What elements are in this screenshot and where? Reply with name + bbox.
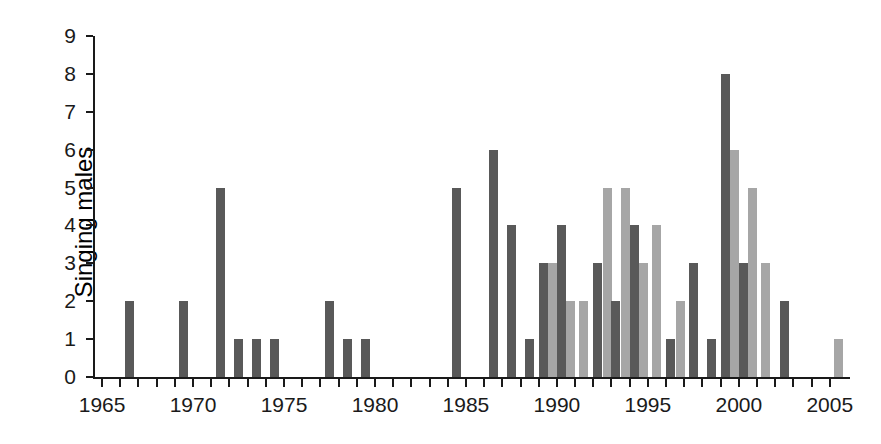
y-tick-6 <box>86 149 93 151</box>
y-tick-3 <box>86 262 93 264</box>
y-tick-2 <box>86 300 93 302</box>
y-tick-label-0: 0 <box>14 366 76 387</box>
bar-dark-1977 <box>325 301 334 377</box>
y-tick-8 <box>86 73 93 75</box>
x-tick-1996 <box>665 379 667 387</box>
x-tick-label-1990: 1990 <box>517 394 597 415</box>
x-tick-1965 <box>101 379 103 387</box>
x-tick-2004 <box>811 379 813 387</box>
bar-light-1994 <box>639 263 648 377</box>
x-tick-1976 <box>301 379 303 387</box>
bar-light-1995 <box>652 225 661 377</box>
x-tick-1998 <box>701 379 703 387</box>
bar-dark-1998 <box>707 339 716 377</box>
x-tick-1967 <box>137 379 139 387</box>
y-tick-0 <box>86 376 93 378</box>
bar-dark-1992 <box>593 263 602 377</box>
bar-dark-1979 <box>361 339 370 377</box>
x-tick-1972 <box>228 379 230 387</box>
x-tick-label-2005: 2005 <box>790 394 870 415</box>
y-tick-label-2: 2 <box>14 290 76 311</box>
x-tick-1980 <box>374 379 376 387</box>
x-tick-1997 <box>683 379 685 387</box>
x-axis-line <box>93 377 850 379</box>
x-tick-1970 <box>192 379 194 387</box>
bar-dark-1996 <box>666 339 675 377</box>
bar-light-2005 <box>834 339 843 377</box>
bar-dark-1972 <box>234 339 243 377</box>
bar-dark-1973 <box>252 339 261 377</box>
y-tick-label-3: 3 <box>14 252 76 273</box>
bar-light-1993 <box>621 188 630 377</box>
bar-dark-1994 <box>630 225 639 377</box>
x-tick-1990 <box>556 379 558 387</box>
x-tick-1993 <box>610 379 612 387</box>
y-tick-4 <box>86 224 93 226</box>
x-tick-1988 <box>520 379 522 387</box>
x-tick-1985 <box>465 379 467 387</box>
x-tick-1986 <box>483 379 485 387</box>
bar-dark-1990 <box>557 225 566 377</box>
x-tick-2003 <box>792 379 794 387</box>
bar-dark-1988 <box>525 339 534 377</box>
bar-dark-1987 <box>507 225 516 377</box>
y-tick-5 <box>86 187 93 189</box>
x-tick-1975 <box>283 379 285 387</box>
y-tick-9 <box>86 35 93 37</box>
bar-light-1990 <box>566 301 575 377</box>
bar-light-2000 <box>748 188 757 377</box>
x-tick-1991 <box>574 379 576 387</box>
y-tick-label-9: 9 <box>14 25 76 46</box>
x-tick-1966 <box>119 379 121 387</box>
x-tick-label-1995: 1995 <box>608 394 688 415</box>
plot-area <box>93 36 848 377</box>
x-tick-1987 <box>501 379 503 387</box>
x-tick-2005 <box>829 379 831 387</box>
bar-light-1989 <box>548 263 557 377</box>
x-tick-1969 <box>174 379 176 387</box>
bar-dark-1997 <box>689 263 698 377</box>
y-tick-label-6: 6 <box>14 139 76 160</box>
x-tick-label-1985: 1985 <box>426 394 506 415</box>
x-tick-label-1970: 1970 <box>153 394 233 415</box>
x-tick-1981 <box>392 379 394 387</box>
x-tick-label-1975: 1975 <box>244 394 324 415</box>
bar-dark-1969 <box>179 301 188 377</box>
bar-dark-1986 <box>489 150 498 377</box>
bar-light-2001 <box>761 263 770 377</box>
x-tick-1992 <box>592 379 594 387</box>
y-tick-1 <box>86 338 93 340</box>
x-tick-1982 <box>410 379 412 387</box>
x-tick-1979 <box>356 379 358 387</box>
y-tick-label-1: 1 <box>14 328 76 349</box>
y-tick-label-5: 5 <box>14 177 76 198</box>
bar-light-1996 <box>676 301 685 377</box>
bar-light-1999 <box>730 150 739 377</box>
bar-dark-1974 <box>270 339 279 377</box>
x-tick-label-2000: 2000 <box>699 394 779 415</box>
x-tick-1974 <box>265 379 267 387</box>
x-tick-1968 <box>156 379 158 387</box>
y-tick-label-8: 8 <box>14 63 76 84</box>
x-tick-1977 <box>319 379 321 387</box>
x-tick-2001 <box>756 379 758 387</box>
bar-dark-1993 <box>611 301 620 377</box>
bar-dark-1966 <box>125 301 134 377</box>
x-tick-2002 <box>774 379 776 387</box>
y-tick-label-4: 4 <box>14 214 76 235</box>
bar-dark-2002 <box>780 301 789 377</box>
x-tick-1973 <box>247 379 249 387</box>
x-tick-1983 <box>429 379 431 387</box>
bar-dark-1978 <box>343 339 352 377</box>
bar-light-1991 <box>579 301 588 377</box>
bar-dark-2000 <box>739 263 748 377</box>
y-tick-label-7: 7 <box>14 101 76 122</box>
bar-dark-1989 <box>539 263 548 377</box>
x-tick-1999 <box>720 379 722 387</box>
x-tick-label-1965: 1965 <box>62 394 142 415</box>
x-tick-1984 <box>447 379 449 387</box>
bar-dark-1971 <box>216 188 225 377</box>
x-tick-1978 <box>338 379 340 387</box>
singing-males-bar-chart: Singing males 0123456789 196519701975198… <box>0 0 881 444</box>
x-tick-1994 <box>629 379 631 387</box>
